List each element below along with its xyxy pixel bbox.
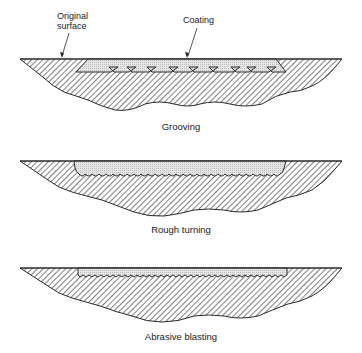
caption-abrasive-blasting: Abrasive blasting: [0, 331, 362, 342]
coating-abrasive-blasting: [78, 268, 287, 277]
original-surface-label: Original surface: [57, 11, 88, 31]
caption-rough-turning: Rough turning: [0, 224, 362, 235]
original-surface-arrow: [60, 33, 69, 58]
abrasive-blasting-panel: [20, 268, 342, 322]
original-surface-label-line2: surface: [57, 21, 88, 31]
coating-grooving: [76, 59, 286, 72]
surface-preparation-diagram: [0, 0, 362, 353]
caption-grooving: Grooving: [0, 121, 362, 132]
coating-arrow: [185, 28, 197, 58]
coating-label: Coating: [183, 15, 214, 25]
coating-rough-turning: [74, 161, 286, 176]
grooving-panel: [20, 28, 342, 110]
rough-turning-panel: [20, 161, 342, 216]
original-surface-label-line1: Original: [57, 11, 88, 21]
